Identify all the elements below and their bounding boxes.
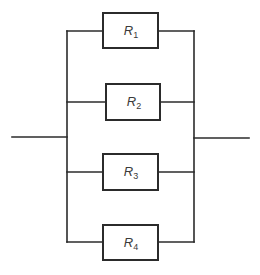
resistor-r2-label: R2 [106,95,162,113]
resistor-r1-label: R1 [103,24,159,42]
r3-symbol: R [124,164,133,179]
r2-subscript: 2 [136,101,141,111]
r1-symbol: R [124,23,133,38]
r2-symbol: R [127,94,136,109]
resistor-r4-label: R4 [103,236,159,254]
resistor-r3-label: R3 [103,165,159,183]
r3-subscript: 3 [133,171,138,181]
r4-subscript: 4 [133,242,138,252]
r1-subscript: 1 [133,30,138,40]
r4-symbol: R [124,235,133,250]
